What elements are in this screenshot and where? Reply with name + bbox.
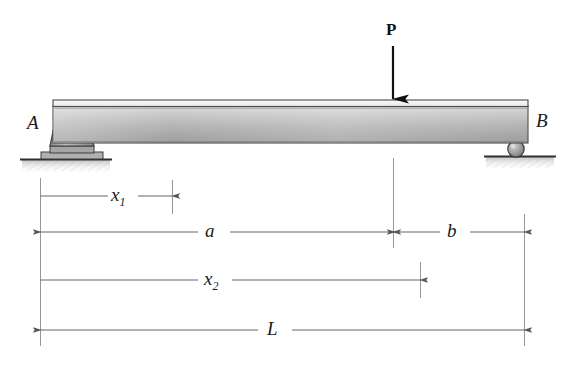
dimension-label-b: b [447,220,457,242]
beam-diagram-figure: P A B x1 a b x2 L [0,0,566,367]
left-ground [20,160,112,174]
support-label-B: B [536,110,548,132]
dimension-label-a: a [205,220,215,242]
dimension-label-x2: x2 [204,268,218,294]
dimension-label-L: L [267,318,278,340]
beam-top-face [53,100,528,107]
dimension-label-x2-subscript: 2 [212,279,218,293]
diagram-canvas [0,0,566,367]
beam [53,100,528,143]
dimension-label-x1: x1 [111,184,125,210]
dimension-label-x1-subscript: 1 [119,195,125,209]
right-ground [484,157,556,171]
support-label-A: A [27,112,39,134]
load-label-P: P [386,20,397,40]
